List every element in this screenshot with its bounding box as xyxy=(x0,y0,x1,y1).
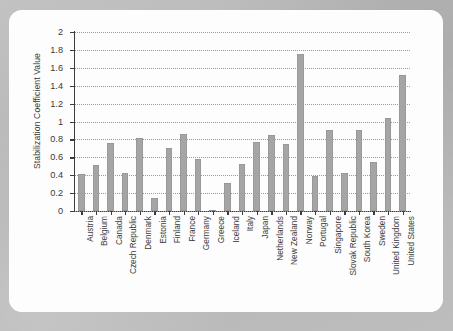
bar xyxy=(312,176,319,211)
x-axis-label: France xyxy=(187,216,197,242)
x-axis-tick-label: Finland xyxy=(172,216,182,243)
x-axis-label: Italy xyxy=(245,216,255,231)
bar xyxy=(78,174,85,211)
x-axis-tick xyxy=(140,211,141,216)
x-axis-tick-label: Denmark xyxy=(143,216,153,250)
y-axis-tick: 1.8 xyxy=(70,50,75,51)
bar xyxy=(107,143,114,211)
gridline xyxy=(74,122,410,123)
y-axis-tick: 2 xyxy=(70,32,75,33)
x-axis-tick xyxy=(315,211,316,216)
bar xyxy=(326,130,333,211)
x-axis-label: Denmark xyxy=(143,216,153,250)
x-axis-label: United Kingdom xyxy=(391,216,401,275)
x-axis-tick-label: Norway xyxy=(304,216,314,244)
gridline xyxy=(74,68,410,69)
x-axis-tick-label: France xyxy=(187,216,197,242)
x-axis-tick-label: Japan xyxy=(260,216,270,239)
x-axis-tick-label: Estonia xyxy=(158,216,168,244)
bar xyxy=(268,135,275,211)
x-axis-tick-label: Greece xyxy=(216,216,226,243)
y-axis-tick-label: 1 xyxy=(58,117,63,127)
x-axis-tick-label: Canada xyxy=(114,216,124,245)
y-axis-tick-label: 1.4 xyxy=(50,81,63,91)
y-axis-tick: 1.6 xyxy=(70,68,75,69)
x-axis-label: Czech Republic xyxy=(128,216,138,274)
bar xyxy=(166,148,173,211)
x-axis-tick xyxy=(330,211,331,216)
x-axis-label: Slovak Republic xyxy=(348,216,358,276)
x-axis-label: Sweden xyxy=(377,216,387,246)
y-axis-tick: 0.2 xyxy=(70,193,75,194)
x-axis-label: Estonia xyxy=(158,216,168,244)
x-axis-tick-label: Belgium xyxy=(99,216,109,246)
y-axis-tick-label: 0.2 xyxy=(50,188,63,198)
x-axis-tick xyxy=(271,211,272,216)
y-axis-tick: 0.6 xyxy=(70,157,75,158)
bar xyxy=(224,183,231,211)
x-axis-label: United States xyxy=(406,216,416,266)
x-axis-tick-label: Singapore xyxy=(333,216,343,254)
y-axis-tick: 0 xyxy=(70,211,75,212)
x-axis-tick xyxy=(125,211,126,216)
x-axis-tick-label: New Zealand xyxy=(289,216,299,265)
y-axis-tick-label: 1.2 xyxy=(50,99,63,109)
x-axis-tick-label: Germany xyxy=(201,216,211,250)
screenshot-canvas: Stabilization Coefficient Value 21.81.61… xyxy=(0,0,453,331)
bar xyxy=(136,138,143,211)
x-axis-label: Belgium xyxy=(99,216,109,246)
x-axis-tick-label: Slovak Republic xyxy=(348,216,358,276)
x-axis-label: Germany xyxy=(201,216,211,250)
bar xyxy=(195,159,202,211)
x-axis-tick xyxy=(359,211,360,216)
bar xyxy=(356,130,363,211)
bar xyxy=(239,164,246,211)
bar xyxy=(385,118,392,211)
y-axis-tick-label: 0.8 xyxy=(50,134,63,144)
x-axis-tick xyxy=(373,211,374,216)
x-axis-label: South Korea xyxy=(362,216,372,262)
y-axis-tick: 1.2 xyxy=(70,104,75,105)
bar xyxy=(399,75,406,211)
y-axis-tick-label: 0.6 xyxy=(50,152,63,162)
x-axis-label: Greece xyxy=(216,216,226,243)
x-axis-label: New Zealand xyxy=(289,216,299,265)
y-axis-tick-label: 2 xyxy=(58,27,63,37)
x-axis-tick-label: Portugal xyxy=(318,216,328,247)
x-axis-tick xyxy=(169,211,170,216)
bar xyxy=(297,54,304,211)
x-axis-label: Netherlands xyxy=(275,216,285,261)
x-axis-tick-label: South Korea xyxy=(362,216,372,262)
y-axis-tick-label: 0.4 xyxy=(50,170,63,180)
x-axis-tick-label: Italy xyxy=(245,216,255,231)
x-axis-tick xyxy=(154,211,155,216)
x-axis-tick-label: Austria xyxy=(85,216,95,242)
x-axis-tick xyxy=(96,211,97,216)
x-axis-tick xyxy=(300,211,301,216)
x-axis-tick xyxy=(227,211,228,216)
gridline xyxy=(74,104,410,105)
x-axis-tick xyxy=(344,211,345,216)
x-axis-label: Austria xyxy=(85,216,95,242)
y-axis-tick-label: 1.8 xyxy=(50,45,63,55)
y-axis-tick: 0.8 xyxy=(70,139,75,140)
x-axis-label: Canada xyxy=(114,216,124,245)
y-axis-tick: 0.4 xyxy=(70,175,75,176)
x-axis-tick xyxy=(403,211,404,216)
x-axis-tick xyxy=(184,211,185,216)
bar xyxy=(370,162,377,211)
x-axis-label: Japan xyxy=(260,216,270,239)
x-axis-tick xyxy=(81,211,82,216)
x-axis-label: Norway xyxy=(304,216,314,244)
x-axis-tick-label: United States xyxy=(406,216,416,266)
x-axis-label: Iceland xyxy=(231,216,241,243)
x-axis-tick xyxy=(286,211,287,216)
x-axis-tick xyxy=(198,211,199,216)
x-axis-tick xyxy=(111,211,112,216)
bar xyxy=(253,142,260,211)
y-axis-tick-label: 1.6 xyxy=(50,63,63,73)
bar xyxy=(283,144,290,211)
x-axis-tick-label: Czech Republic xyxy=(128,216,138,274)
gridline xyxy=(74,32,410,33)
bar xyxy=(180,134,187,211)
